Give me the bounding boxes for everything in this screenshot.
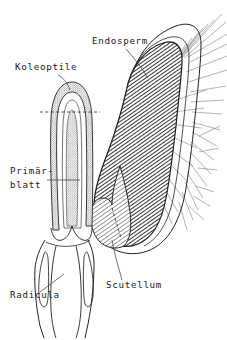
label-primaerblatt-line2: blatt xyxy=(10,179,41,190)
germination-diagram-figure: Endosperm Koleoptile Primär- blatt Scute… xyxy=(0,0,227,340)
label-primaerblatt-line1: Primär- xyxy=(10,165,54,176)
diagram-canvas: Endosperm Koleoptile Primär- blatt Scute… xyxy=(0,0,227,340)
primaerblatt-body xyxy=(66,110,78,226)
label-koleoptile: Koleoptile xyxy=(15,61,77,72)
label-scutellum: Scutellum xyxy=(106,279,162,290)
label-radicula: Radicula xyxy=(10,289,60,300)
label-endosperm: Endosperm xyxy=(92,35,148,46)
